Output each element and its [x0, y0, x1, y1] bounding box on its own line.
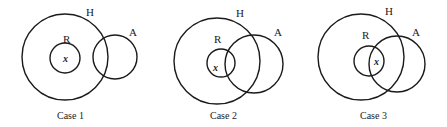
- case-1-caption: Case 1: [57, 110, 84, 121]
- set-a-circle: [93, 35, 137, 79]
- set-h-circle: [174, 18, 260, 104]
- set-r-circle: [207, 49, 235, 77]
- set-a-label: A: [129, 26, 137, 38]
- set-h-label: H: [86, 6, 94, 18]
- set-a-label: A: [412, 26, 420, 38]
- case-3-group: H R A x Case 3: [318, 5, 425, 121]
- set-h-label: H: [385, 5, 393, 17]
- set-r-label: R: [63, 33, 71, 45]
- element-x-label: x: [62, 53, 68, 64]
- case-3-caption: Case 3: [360, 110, 387, 121]
- case-2-group: H R A x Case 2: [174, 7, 283, 121]
- element-x-label: x: [212, 62, 218, 73]
- set-a-circle: [225, 35, 283, 93]
- venn-diagram-figure: H R A x Case 1 H R A x Case 2 H R A x Ca…: [0, 0, 447, 127]
- case-1-group: H R A x Case 1: [22, 6, 137, 121]
- set-r-label: R: [362, 29, 370, 41]
- set-h-label: H: [236, 7, 244, 19]
- element-x-label: x: [373, 56, 379, 67]
- set-a-label: A: [274, 26, 282, 38]
- case-2-caption: Case 2: [210, 110, 237, 121]
- set-r-label: R: [214, 33, 222, 45]
- set-h-circle: [318, 14, 404, 100]
